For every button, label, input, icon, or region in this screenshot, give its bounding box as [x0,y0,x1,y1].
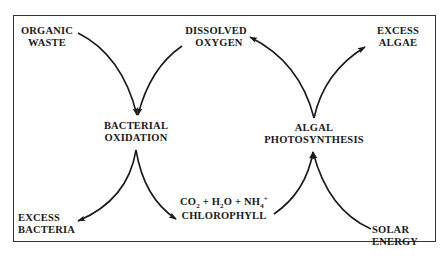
arrow-organic-waste-to-bacterial-oxidation [78,33,137,115]
arrow-bacterial-oxidation-to-chlorophyll [136,150,176,219]
node-bacterial-oxidation-line2: OXIDATION [96,132,176,144]
node-excess-algae: EXCESS ALGAE [370,25,426,49]
formula-nh4-subscript: 4 [260,202,264,210]
formula-co2: CO [180,196,196,207]
node-bacterial-oxidation-line1: BACTERIAL [96,120,176,132]
formula-nh4: NH [244,196,260,207]
node-excess-bacteria-line1: EXCESS [18,212,86,224]
formula-plus-1: + [200,196,212,207]
node-excess-bacteria: EXCESS BACTERIA [18,212,86,236]
arrow-chlorophyll-to-algal-photosynthesis [274,152,313,214]
node-solar-energy-line2: ENERGY [372,236,432,248]
formula-h2o-o: O [224,196,232,207]
node-excess-bacteria-line2: BACTERIA [18,224,86,236]
node-chlorophyll: CHLOROPHYLL [174,210,274,222]
node-bacterial-oxidation: BACTERIAL OXIDATION [96,120,176,144]
node-dissolved-oxygen-line1: DISSOLVED [176,25,256,37]
node-dissolved-oxygen: DISSOLVED OXYGEN [176,25,256,49]
node-algal-photosynthesis-line2: PHOTOSYNTHESIS [259,134,369,146]
node-algal-photosynthesis: ALGAL PHOTOSYNTHESIS [259,122,369,146]
node-products: CO2 + H2O + NH4+ CHLOROPHYLL [174,196,274,222]
node-algal-photosynthesis-line1: ALGAL [259,122,369,134]
formula-h2o-h: H [212,196,220,207]
formula-nh4-superscript: + [264,195,268,203]
node-products-formula: CO2 + H2O + NH4+ [174,196,274,208]
arrow-bacterial-oxidation-to-excess-bacteria [78,150,136,221]
arrow-dissolved-oxygen-to-bacterial-oxidation [138,46,182,115]
node-solar-energy: SOLAR ENERGY [372,224,432,248]
node-organic-waste: ORGANIC WASTE [16,25,78,49]
formula-plus-2: + [232,196,244,207]
node-excess-algae-line1: EXCESS [370,25,426,37]
node-solar-energy-line1: SOLAR [372,224,432,236]
node-organic-waste-line2: WASTE [16,37,78,49]
node-excess-algae-line2: ALGAE [370,37,426,49]
arrow-algal-photosynthesis-to-excess-algae [314,47,365,118]
arrow-solar-energy-to-algal-photosynthesis [313,152,371,229]
arrow-algal-photosynthesis-to-dissolved-oxygen [250,37,314,118]
node-dissolved-oxygen-line2: OXYGEN [176,37,256,49]
node-organic-waste-line1: ORGANIC [16,25,78,37]
